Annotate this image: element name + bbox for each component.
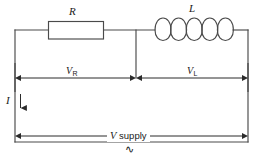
circuit-diagram-canvas: R L I VR VL V supply ∿ [0,0,261,160]
ac-source-icon: ∿ [125,144,134,155]
voltage-resistor-label: VR [63,66,80,76]
voltage-resistor-subscript: R [73,70,78,77]
inductor-symbol [155,18,233,41]
voltage-resistor-symbol: V [66,65,72,76]
voltage-inductor-subscript: L [194,70,198,77]
resistor-label: R [69,6,76,17]
supply-voltage-text: supply [116,130,146,141]
current-label: I [6,95,10,106]
voltage-inductor-label: VL [184,66,200,76]
resistor-symbol [49,22,104,40]
inductor-label: L [189,3,195,14]
circuit-wires [15,30,248,142]
supply-voltage-label: V supply [107,131,150,142]
voltage-inductor-symbol: V [187,65,193,76]
